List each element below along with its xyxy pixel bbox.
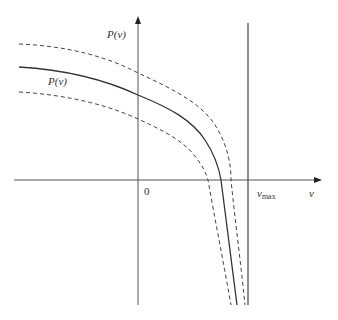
plot-svg	[0, 0, 338, 320]
vmax-label: vmax	[257, 188, 276, 201]
lower-dashed-curve	[19, 92, 231, 305]
y-axis-arrow-icon	[135, 16, 141, 24]
diagram-canvas: P(v) P(v) 0 vmax v	[0, 0, 338, 320]
curve-label: P(v)	[48, 76, 67, 87]
origin-label: 0	[144, 186, 150, 197]
pv-solid-curve	[19, 67, 237, 305]
vmax-label-sub: max	[262, 192, 276, 201]
y-axis-label: P(v)	[107, 29, 126, 40]
x-axis-label: v	[309, 188, 314, 199]
x-axis-arrow-icon	[314, 177, 322, 183]
